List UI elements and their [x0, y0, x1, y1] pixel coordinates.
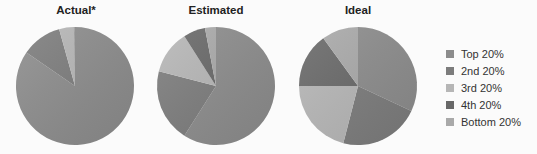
- legend-swatch: [446, 50, 454, 58]
- legend-item-bottom: Bottom 20%: [446, 113, 521, 130]
- legend-item-2nd: 2nd 20%: [446, 63, 521, 80]
- legend-item-4th: 4th 20%: [446, 96, 521, 113]
- legend-swatch: [446, 67, 454, 75]
- pie-shading: [16, 27, 134, 145]
- legend-item-top: Top 20%: [446, 46, 521, 63]
- legend-swatch: [446, 84, 454, 92]
- legend-swatch: [446, 118, 454, 126]
- legend-label: 3rd 20%: [461, 82, 502, 94]
- pie-ideal: [299, 27, 417, 145]
- legend-swatch: [446, 101, 454, 109]
- legend-label: 2nd 20%: [461, 65, 504, 77]
- pie-shading: [157, 27, 275, 145]
- pie-shading: [299, 27, 417, 145]
- legend: Top 20% 2nd 20% 3rd 20% 4th 20% Bottom 2…: [446, 46, 521, 130]
- legend-label: Top 20%: [461, 48, 504, 60]
- legend-label: Bottom 20%: [461, 116, 521, 128]
- legend-label: 4th 20%: [461, 99, 501, 111]
- pie-estimated: [157, 27, 275, 145]
- pie-actual: [16, 27, 134, 145]
- legend-item-3rd: 3rd 20%: [446, 80, 521, 97]
